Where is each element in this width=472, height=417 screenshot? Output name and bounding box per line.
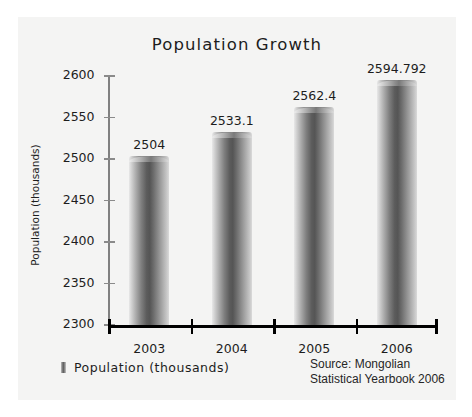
bar-top-cap (377, 80, 417, 86)
x-axis-tick (273, 319, 276, 334)
y-axis-tick: 2400 (104, 241, 115, 243)
plot-area: 2300235024002450250025502600 25042533.12… (108, 57, 438, 347)
source-note: Source: Mongolian Statistical Yearbook 2… (310, 357, 445, 387)
y-axis-tick: 2500 (104, 158, 115, 160)
bar-top-cap (129, 156, 169, 162)
bar-top-cap (212, 132, 252, 138)
population-growth-chart: Population Growth Population (thousands)… (0, 0, 472, 417)
source-line-2: Statistical Yearbook 2006 (310, 372, 445, 387)
y-axis-tick-label: 2600 (47, 67, 95, 82)
y-axis-tick-label: 2350 (47, 275, 95, 290)
y-axis-title: Population (thousands) (29, 125, 41, 285)
legend-item-label: Population (thousands) (74, 360, 229, 375)
y-axis-tick-label: 2550 (47, 109, 95, 124)
source-line-1: Source: Mongolian (310, 357, 445, 372)
x-axis-tick (356, 319, 359, 334)
bar: 2504 (129, 156, 169, 325)
chart-panel: Population Growth Population (thousands)… (18, 17, 456, 400)
chart-legend: Population (thousands) (61, 360, 229, 375)
y-axis-tick-label: 2500 (47, 150, 95, 165)
bar-value-label: 2533.1 (210, 113, 254, 128)
bar-value-label: 2594.792 (367, 61, 427, 76)
y-axis-tick-label: 2400 (47, 233, 95, 248)
x-axis-category-label: 2003 (133, 341, 165, 356)
x-axis-category-label: 2006 (381, 341, 413, 356)
gradient-bar-swatch-icon (61, 362, 66, 373)
x-axis-tick (435, 319, 438, 334)
x-axis-category-label: 2005 (298, 341, 330, 356)
bar: 2594.792 (377, 80, 417, 325)
chart-title: Population Growth (18, 35, 456, 54)
y-axis-tick: 2450 (104, 200, 115, 202)
x-axis-tick (191, 319, 194, 334)
y-axis-tick: 2600 (104, 75, 115, 77)
y-axis-tick: 2350 (104, 283, 115, 285)
x-axis-tick (108, 319, 111, 334)
bar: 2533.1 (212, 132, 252, 325)
bar-value-label: 2504 (133, 137, 165, 152)
bar: 2562.4 (294, 107, 334, 325)
y-axis-tick-label: 2300 (47, 316, 95, 331)
x-axis-category-label: 2004 (216, 341, 248, 356)
y-axis-tick: 2550 (104, 117, 115, 119)
bar-top-cap (294, 107, 334, 113)
bar-value-label: 2562.4 (292, 88, 336, 103)
y-axis-tick-label: 2450 (47, 192, 95, 207)
